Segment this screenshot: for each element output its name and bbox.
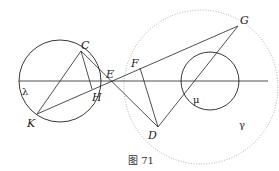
label-G: G — [240, 14, 249, 27]
label-lambda: λ — [22, 86, 29, 97]
figure-caption: 图 71 — [128, 155, 154, 166]
label-mu: μ — [193, 94, 200, 105]
label-E: E — [105, 68, 114, 81]
geometry-figure: C H K E F G D λ μ γ 图 71 — [0, 0, 279, 171]
segment-DG — [158, 26, 238, 127]
label-C: C — [81, 39, 90, 52]
label-F: F — [130, 57, 139, 70]
label-D: D — [147, 129, 157, 142]
label-K: K — [26, 117, 36, 130]
label-gamma: γ — [239, 119, 245, 130]
label-H: H — [91, 91, 102, 104]
segment-KG — [37, 26, 238, 114]
